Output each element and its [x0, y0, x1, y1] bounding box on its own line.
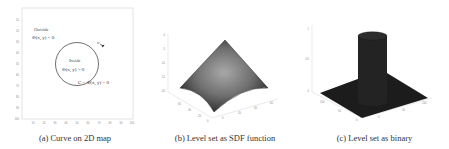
- svg-text:40: 40: [16, 51, 19, 55]
- caption-c: (c) Level set as binary: [300, 133, 449, 143]
- svg-text:20: 20: [43, 121, 46, 125]
- svg-text:90: 90: [16, 106, 19, 110]
- svg-text:100: 100: [130, 121, 135, 125]
- svg-text:20: 20: [238, 111, 241, 115]
- svg-text:60: 60: [270, 101, 273, 105]
- svg-text:100: 100: [15, 117, 20, 121]
- svg-text:80: 80: [16, 95, 19, 99]
- z-axis-ticks: 1 0.5 0: [305, 27, 309, 93]
- svg-text:20: 20: [198, 114, 201, 118]
- svg-text:40: 40: [254, 106, 257, 110]
- svg-text:0: 0: [164, 33, 166, 37]
- svg-text:30: 30: [54, 121, 57, 125]
- svg-text:50: 50: [16, 62, 19, 66]
- svg-text:40: 40: [65, 121, 68, 125]
- svg-text:30: 30: [16, 40, 19, 44]
- outside-label: Outside: [34, 27, 48, 32]
- x-axis-ticks: 10 20 30 40 50 60 70 80 90 100: [32, 121, 135, 125]
- svg-text:1: 1: [308, 27, 310, 31]
- svg-text:80: 80: [109, 121, 112, 125]
- svg-text:-20: -20: [161, 89, 165, 93]
- svg-text:50: 50: [338, 109, 341, 113]
- svg-text:100: 100: [422, 101, 427, 105]
- svg-text:0: 0: [207, 119, 209, 123]
- svg-text:0: 0: [222, 116, 224, 120]
- svg-text:50: 50: [76, 121, 79, 125]
- svg-text:100: 100: [320, 100, 325, 104]
- svg-text:-15: -15: [161, 75, 165, 79]
- svg-text:40: 40: [188, 108, 191, 112]
- binary-cylinder: [358, 32, 387, 106]
- svg-text:0: 0: [356, 118, 358, 122]
- plot-2d-map: 10 20 30 40 50 60 70 80 90 100 10 20 30 …: [0, 0, 150, 130]
- panel-binary-level-set: 1 0.5 0 100 50 0 0 50 100 (c) Level set …: [300, 0, 449, 149]
- svg-text:70: 70: [98, 121, 101, 125]
- svg-text:-10: -10: [161, 61, 165, 65]
- svg-text:90: 90: [120, 121, 123, 125]
- svg-text:10: 10: [16, 18, 19, 22]
- y-axis-ticks: 0 20 40 60: [222, 101, 273, 120]
- caption-a: (a) Curve on 2D map: [0, 133, 150, 143]
- svg-text:0: 0: [308, 89, 310, 93]
- svg-text:0.5: 0.5: [305, 57, 309, 61]
- svg-text:70: 70: [16, 84, 19, 88]
- caption-b: (b) Level set as SDF function: [150, 133, 300, 143]
- svg-text:10: 10: [32, 121, 35, 125]
- z-axis-ticks: 0 -5 -10 -15 -20: [161, 33, 165, 93]
- plot-sdf-surface: 0 -5 -10 -15 -20 60 40 20 0 0 20 40 60: [150, 0, 300, 130]
- panel-curve-2d-map: 10 20 30 40 50 60 70 80 90 100 10 20 30 …: [0, 0, 150, 149]
- svg-text:60: 60: [16, 73, 19, 77]
- svg-text:50: 50: [402, 108, 405, 112]
- plot-binary-level-set: 1 0.5 0 100 50 0 0 50 100: [300, 0, 449, 130]
- svg-text:60: 60: [87, 121, 90, 125]
- svg-text:-5: -5: [163, 47, 166, 51]
- svg-text:20: 20: [16, 29, 19, 33]
- sdf-surface: [180, 40, 268, 112]
- svg-text:60: 60: [178, 102, 181, 106]
- y-axis-ticks: 10 20 30 40 50 60 70 80 90 100: [15, 18, 20, 121]
- x-axis-ticks: 60 40 20 0: [178, 102, 209, 123]
- inside-label: Inside: [68, 58, 80, 63]
- panel-sdf-surface: 0 -5 -10 -15 -20 60 40 20 0 0 20 40 60 (…: [150, 0, 300, 149]
- svg-text:0: 0: [378, 115, 380, 119]
